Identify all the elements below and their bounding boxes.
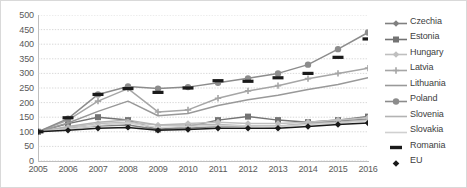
legend-item-lithuania[interactable]: Lithuania: [384, 75, 467, 91]
x-axis-tick-label: 2009: [148, 164, 167, 174]
data-point: [333, 56, 344, 59]
data-point: [275, 82, 281, 88]
data-point: [363, 37, 369, 40]
plot-svg: [38, 15, 368, 161]
x-axis-tick-label: 2015: [328, 164, 347, 174]
legend-item-label: Estonia: [410, 31, 439, 41]
y-axis-tick-label: 150: [19, 112, 34, 122]
legend-item-estonia[interactable]: Estonia: [384, 29, 467, 45]
x-axis-tick-label: 2006: [58, 164, 77, 174]
x-axis-tick-label: 2007: [88, 164, 107, 174]
legend-item-czechia[interactable]: Czechia: [384, 13, 467, 29]
legend-marker-icon: [384, 93, 408, 104]
legend-item-label: Lithuania: [410, 78, 446, 88]
data-point: [365, 65, 368, 71]
legend-item-label: Hungary: [410, 47, 443, 57]
legend-marker-icon: [384, 108, 408, 119]
legend-marker-icon: [384, 15, 408, 26]
x-axis-tick-label: 2005: [28, 164, 47, 174]
legend-item-label: EU: [410, 155, 422, 165]
legend-item-poland[interactable]: Poland: [384, 91, 467, 107]
x-axis-tick-label: 2008: [118, 164, 137, 174]
series-layer: [38, 29, 368, 135]
x-axis-line: [38, 161, 369, 162]
x-axis-tick-label: 2012: [238, 164, 257, 174]
y-axis-tick-label: 100: [19, 127, 34, 137]
x-axis-tick-label: 2010: [178, 164, 197, 174]
data-point: [183, 86, 194, 89]
legend-marker-icon: [384, 31, 408, 42]
data-point: [95, 114, 101, 120]
data-point: [63, 116, 74, 119]
legend-item-slovakia[interactable]: Slovakia: [384, 122, 467, 138]
x-axis-tick-label: 2016: [358, 164, 377, 174]
y-axis-tick-label: 350: [19, 54, 34, 64]
data-point: [305, 75, 311, 81]
legend-marker-icon: [384, 77, 408, 88]
x-axis-tick-label: 2011: [209, 164, 228, 174]
data-point: [335, 46, 341, 52]
legend-item-label: Poland: [410, 93, 437, 103]
y-axis-tick-label: 50: [24, 141, 34, 151]
data-point: [93, 93, 104, 96]
legend-marker-icon: [384, 124, 408, 135]
y-axis-tick-label: 200: [19, 98, 34, 108]
legend-item-romania[interactable]: Romania: [384, 137, 467, 153]
data-point: [275, 70, 281, 76]
x-axis: 2005200620072008200920102011201220132014…: [38, 164, 368, 180]
legend-item-label: Czechia: [410, 16, 442, 26]
data-point: [213, 79, 224, 82]
y-axis-tick-label: 400: [19, 39, 34, 49]
legend-marker-icon: [384, 139, 408, 150]
data-point: [245, 114, 251, 120]
data-point: [123, 87, 134, 90]
legend-item-eu[interactable]: EU: [384, 153, 467, 169]
data-point: [243, 80, 254, 83]
y-axis: 500450400350300250200150100500: [1, 15, 34, 161]
legend-marker-icon: [384, 46, 408, 57]
legend-item-label: Slovenia: [410, 109, 444, 119]
y-axis-tick-label: 500: [19, 10, 34, 20]
y-axis-tick-label: 300: [19, 68, 34, 78]
data-point: [215, 95, 221, 101]
plot-area: [38, 15, 368, 161]
line-chart: 500450400350300250200150100500 200520062…: [0, 0, 467, 188]
legend-marker-icon: [384, 155, 408, 166]
legend-item-latvia[interactable]: Latvia: [384, 60, 467, 76]
x-axis-tick-label: 2013: [268, 164, 287, 174]
legend-item-label: Latvia: [410, 62, 433, 72]
data-point: [303, 72, 314, 75]
data-point: [153, 91, 164, 94]
data-point: [273, 76, 284, 79]
legend-item-label: Romania: [410, 140, 445, 150]
y-axis-tick-label: 250: [19, 83, 34, 93]
x-axis-tick-label: 2014: [298, 164, 317, 174]
chart-legend: CzechiaEstoniaHungaryLatviaLithuaniaPola…: [384, 13, 467, 168]
legend-marker-icon: [384, 62, 408, 73]
y-axis-tick-label: 450: [19, 25, 34, 35]
legend-item-slovenia[interactable]: Slovenia: [384, 106, 467, 122]
data-point: [335, 70, 341, 76]
data-point: [245, 88, 251, 94]
data-point: [305, 61, 311, 67]
legend-item-label: Slovakia: [410, 124, 443, 134]
legend-item-hungary[interactable]: Hungary: [384, 44, 467, 60]
